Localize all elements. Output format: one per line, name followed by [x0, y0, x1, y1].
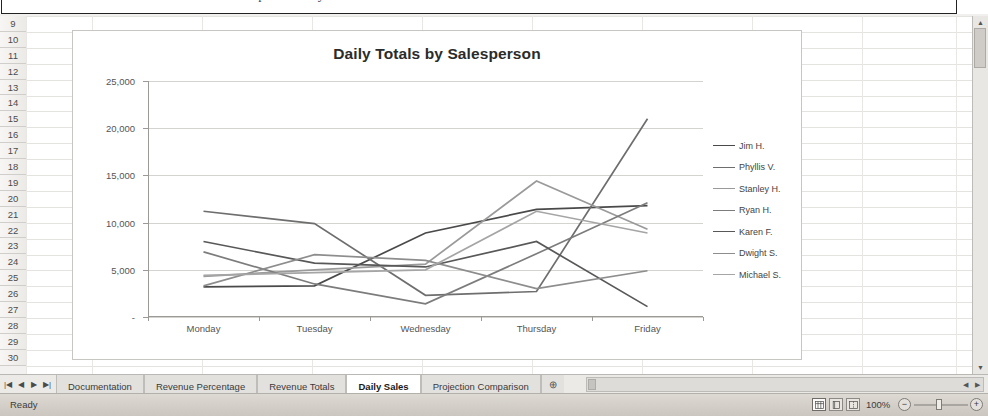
sheet-tab-projection-comparison[interactable]: Projection Comparison [421, 375, 541, 394]
page-layout-icon[interactable] [829, 398, 843, 411]
row-header-10[interactable]: 10 [0, 32, 26, 48]
vertical-scrollbar[interactable]: ▲ ▼ [972, 16, 988, 374]
row-header-15[interactable]: 15 [0, 111, 26, 127]
x-axis-label: Wednesday [401, 323, 451, 334]
add-sheet-icon[interactable]: ⊕ [541, 375, 564, 394]
legend-label: Stanley H. [739, 184, 781, 194]
sheet-tab-bar[interactable]: |◀◀▶▶| DocumentationRevenue PercentageRe… [0, 374, 988, 394]
row-header-16[interactable]: 16 [0, 127, 26, 143]
legend-item[interactable]: Michael S. [713, 264, 803, 286]
chart-object[interactable]: Daily Totals by Salesperson -5,00010,000… [72, 30, 802, 360]
normal-view-icon[interactable] [812, 398, 826, 411]
sheet-tabs[interactable]: DocumentationRevenue PercentageRevenue T… [56, 375, 564, 394]
legend-item[interactable]: Phyllis V. [713, 157, 803, 179]
x-axis-tick [370, 317, 371, 321]
row-header-22[interactable]: 22 [0, 223, 26, 239]
scroll-down-arrow[interactable]: ▼ [975, 362, 986, 373]
sheet-tab-documentation[interactable]: Documentation [56, 375, 144, 394]
hscroll-right-arrow[interactable]: ▶ [971, 379, 983, 390]
chart-gridline [148, 317, 703, 318]
cell-gridline-v [26, 16, 27, 374]
y-axis-label: 10,000 [106, 217, 135, 228]
legend-label: Ryan H. [739, 205, 772, 215]
legend-item[interactable]: Ryan H. [713, 200, 803, 222]
legend-swatch [713, 274, 735, 275]
page-break-icon[interactable] [846, 398, 860, 411]
cell-gridline-v [956, 16, 957, 374]
last-sheet-button[interactable]: ▶| [41, 378, 53, 391]
row-header-26[interactable]: 26 [0, 286, 26, 302]
x-axis-tick [703, 317, 704, 321]
chart-title: Daily Totals by Salesperson [73, 45, 801, 63]
row-header-13[interactable]: 13 [0, 80, 26, 96]
row-header-11[interactable]: 11 [0, 48, 26, 64]
row-header-column[interactable]: 9101112131415161718192021222324252627282… [0, 16, 27, 374]
legend-swatch [713, 210, 735, 211]
chart-legend[interactable]: Jim H.Phyllis V.Stanley H.Ryan H.Karen F… [713, 135, 803, 286]
row-header-24[interactable]: 24 [0, 254, 26, 270]
x-axis-tick [481, 317, 482, 321]
sheet-nav-buttons[interactable]: |◀◀▶▶| [2, 378, 53, 391]
row-header-21[interactable]: 21 [0, 207, 26, 223]
legend-swatch [713, 253, 735, 254]
zoom-in-button[interactable]: + [970, 398, 983, 411]
x-axis-tick [259, 317, 260, 321]
row-header-17[interactable]: 17 [0, 143, 26, 159]
cell-gridline-v [862, 16, 863, 374]
row-header-18[interactable]: 18 [0, 159, 26, 175]
row-header-29[interactable]: 29 [0, 334, 26, 350]
hscroll-left-arrow[interactable]: ◀ [959, 379, 971, 390]
y-axis-label: 20,000 [106, 123, 135, 134]
view-mode-buttons[interactable] [812, 398, 860, 411]
x-axis-labels: MondayTuesdayWednesdayThursdayFriday [148, 323, 703, 339]
legend-item[interactable]: Jim H. [713, 135, 803, 157]
x-axis-label: Tuesday [296, 323, 332, 334]
row-header-14[interactable]: 14 [0, 95, 26, 111]
cell-gridline-h [26, 16, 988, 17]
prev-sheet-button[interactable]: ◀ [15, 378, 27, 391]
first-sheet-button[interactable]: |◀ [2, 378, 14, 391]
row-header-9[interactable]: 9 [0, 16, 26, 32]
spreadsheet-grid[interactable]: 9101112131415161718192021222324252627282… [0, 16, 988, 374]
x-axis-label: Monday [187, 323, 221, 334]
y-axis-label: - [132, 312, 135, 323]
horizontal-scroll-thumb[interactable] [588, 379, 596, 390]
next-sheet-button[interactable]: ▶ [28, 378, 40, 391]
row-header-25[interactable]: 25 [0, 270, 26, 286]
clipped-title-text: Completed Daily Totals chart [232, 0, 752, 3]
x-axis-tick [592, 317, 593, 321]
legend-swatch [713, 188, 735, 189]
series-lines [148, 81, 703, 317]
scroll-up-arrow[interactable]: ▲ [975, 17, 986, 28]
zoom-level-label: 100% [866, 399, 890, 410]
horizontal-scrollbar[interactable]: ◀ ▶ [586, 377, 984, 392]
row-header-28[interactable]: 28 [0, 318, 26, 334]
y-axis-label: 5,000 [111, 264, 135, 275]
legend-item[interactable]: Karen F. [713, 221, 803, 243]
legend-item[interactable]: Dwight S. [713, 243, 803, 265]
x-axis-tick [148, 317, 149, 321]
y-axis-label: 25,000 [106, 76, 135, 87]
x-axis-label: Friday [634, 323, 660, 334]
zoom-slider-thumb[interactable] [936, 399, 942, 410]
row-header-12[interactable]: 12 [0, 64, 26, 80]
row-header-20[interactable]: 20 [0, 191, 26, 207]
sheet-tab-revenue-percentage[interactable]: Revenue Percentage [144, 375, 257, 394]
sheet-tab-revenue-totals[interactable]: Revenue Totals [257, 375, 346, 394]
zoom-out-button[interactable]: − [898, 398, 911, 411]
row-header-19[interactable]: 19 [0, 175, 26, 191]
cell-gridline-h [26, 366, 988, 367]
zoom-slider[interactable]: − + [898, 398, 984, 412]
y-axis-labels: -5,00010,00015,00020,00025,000 [73, 81, 143, 317]
legend-label: Karen F. [739, 227, 773, 237]
legend-item[interactable]: Stanley H. [713, 178, 803, 200]
x-axis-label: Thursday [517, 323, 557, 334]
status-ready-label: Ready [10, 399, 37, 410]
row-header-27[interactable]: 27 [0, 302, 26, 318]
vertical-scroll-thumb[interactable] [974, 28, 986, 68]
legend-label: Michael S. [739, 270, 781, 280]
row-header-23[interactable]: 23 [0, 238, 26, 254]
sheet-tab-daily-sales[interactable]: Daily Sales [346, 375, 420, 394]
row-header-30[interactable]: 30 [0, 350, 26, 366]
